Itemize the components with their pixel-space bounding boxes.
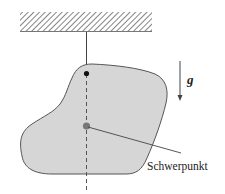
rigid-body <box>21 64 168 174</box>
pivot-point <box>84 71 89 76</box>
hatched-ceiling-icon <box>20 12 152 31</box>
gravity-label: g <box>186 72 194 87</box>
gravity-indicator: g <box>178 61 195 101</box>
ceiling <box>20 12 152 32</box>
center-of-mass-point <box>83 122 90 129</box>
center-of-mass-label: Schwerpunkt <box>147 160 208 173</box>
arrow-head <box>178 95 183 101</box>
diagram-canvas: Schwerpunkt g <box>0 0 225 194</box>
